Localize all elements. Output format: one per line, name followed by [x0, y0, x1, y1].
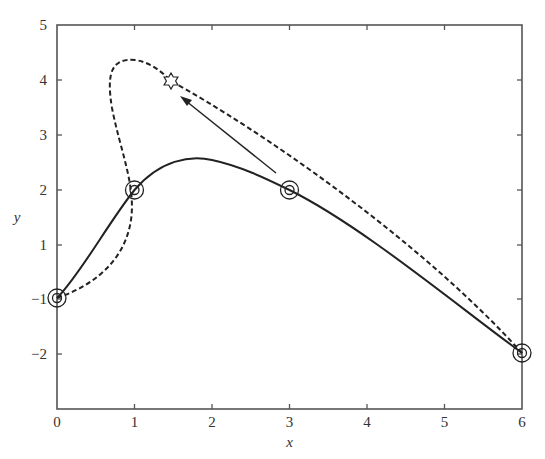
- x-tick-label: 4: [363, 414, 371, 430]
- x-tick-label: 5: [441, 414, 449, 430]
- y-tick-label: 4: [40, 72, 48, 88]
- y-tick-label: −2: [31, 346, 47, 362]
- y-tick-label: 3: [40, 127, 48, 143]
- y-axis-label: y: [12, 209, 21, 225]
- x-axis-label: x: [285, 434, 293, 450]
- y-tick-label: 1: [40, 237, 48, 253]
- solid-curve: [57, 158, 522, 353]
- y-tick-label: −1: [31, 291, 47, 307]
- x-tick-label: 6: [518, 414, 526, 430]
- y-tick-label: 5: [40, 17, 48, 33]
- x-tick-label: 3: [286, 414, 294, 430]
- y-ticks: [57, 80, 522, 354]
- x-ticks: [135, 25, 445, 409]
- direction-arrow: [180, 96, 276, 173]
- x-tick-label: 1: [131, 414, 139, 430]
- star-marker: [164, 73, 178, 89]
- dashed-curve: [57, 60, 522, 353]
- x-tick-label: 0: [53, 414, 61, 430]
- x-tick-labels: 0 1 2 3 4 5 6: [53, 414, 526, 430]
- chart: 0 1 2 3 4 5 6 5 4 3 2 1 −1 −2 x y: [0, 0, 545, 459]
- plot-frame: [57, 25, 522, 409]
- y-tick-label: 2: [40, 182, 48, 198]
- y-tick-labels: 5 4 3 2 1 −1 −2: [31, 17, 47, 362]
- x-tick-label: 2: [208, 414, 216, 430]
